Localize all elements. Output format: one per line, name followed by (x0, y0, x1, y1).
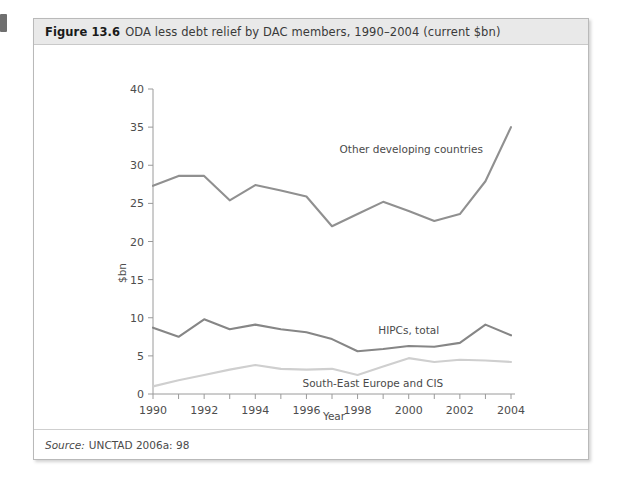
x-tick-label: 1996 (292, 404, 320, 417)
y-axis-title: $bn (116, 263, 128, 283)
series-line (153, 319, 511, 351)
source-text: UNCTAD 2006a: 98 (89, 439, 189, 451)
x-tick-label: 2000 (395, 404, 423, 417)
line-chart: 0510152025303540 19901992199419961998200… (34, 45, 590, 431)
chart-series-labels: Other developing countriesHIPCs, totalSo… (303, 143, 483, 389)
y-axis: 0510152025303540 (130, 83, 153, 401)
figure-title: ODA less debt relief by DAC members, 199… (125, 25, 500, 39)
x-tick-label: 1994 (241, 404, 269, 417)
figure-caption-bar: Figure 13.6 ODA less debt relief by DAC … (34, 19, 588, 45)
series-label: HIPCs, total (378, 324, 439, 336)
y-tick-label: 30 (130, 159, 144, 172)
y-tick-label: 15 (130, 274, 144, 287)
y-tick-label: 40 (130, 83, 144, 96)
figure-number: Figure 13.6 (45, 25, 120, 39)
y-tick-label: 35 (130, 121, 144, 134)
source-label: Source: (45, 439, 85, 451)
chart-series-group (153, 127, 511, 386)
y-tick-label: 20 (130, 236, 144, 249)
source-note: Source: UNCTAD 2006a: 98 (34, 429, 588, 459)
series-label: South-East Europe and CIS (303, 377, 444, 389)
page-edge-mark (0, 14, 7, 32)
x-tick-label: 2004 (497, 404, 525, 417)
figure-card: Figure 13.6 ODA less debt relief by DAC … (33, 18, 589, 460)
y-tick-label: 5 (137, 350, 144, 363)
y-tick-label: 25 (130, 197, 144, 210)
chart-plot-area: 0510152025303540 19901992199419961998200… (34, 45, 588, 429)
x-tick-label: 1990 (139, 404, 167, 417)
x-tick-label: 2002 (446, 404, 474, 417)
y-tick-label: 0 (137, 388, 144, 401)
x-axis-title: Year (322, 410, 346, 422)
series-line (153, 127, 511, 226)
series-label: Other developing countries (340, 143, 483, 155)
x-tick-label: 1998 (344, 404, 372, 417)
y-tick-label: 10 (130, 312, 144, 325)
x-tick-label: 1992 (190, 404, 218, 417)
